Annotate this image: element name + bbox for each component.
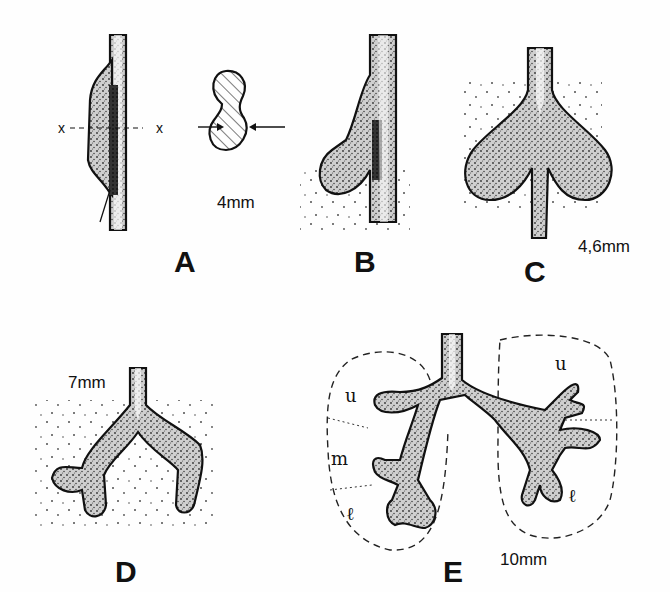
lung-development-diagram: x x 4mm A B C 4,6mm 7mm D xyxy=(0,0,670,592)
dark-thickening xyxy=(109,85,118,195)
panel-a: x x 4mm A xyxy=(58,35,285,278)
axis-x-right: x xyxy=(156,120,163,136)
lobe-label-left-lower: ℓ xyxy=(346,503,355,524)
panel-label-b: B xyxy=(354,245,376,278)
lobe-label-left-middle: m xyxy=(331,448,348,469)
size-label-a: 4mm xyxy=(217,193,255,212)
panel-label-a: A xyxy=(174,245,196,278)
panel-label-d: D xyxy=(115,555,137,588)
panel-label-c: C xyxy=(524,255,546,288)
panel-b: B xyxy=(300,35,410,278)
lobe-label-left-upper: u xyxy=(345,385,357,406)
axis-x-left: x xyxy=(58,120,65,136)
cross-section-shape xyxy=(210,71,247,150)
figure-canvas: x x 4mm A B C 4,6mm 7mm D xyxy=(0,0,670,592)
size-label-e: 10mm xyxy=(500,550,547,569)
panel-d: 7mm D xyxy=(35,368,215,588)
lobe-label-right-lower: ℓ xyxy=(568,485,577,506)
panel-c: C 4,6mm xyxy=(462,48,630,288)
left-fissure-lower xyxy=(330,485,372,490)
lobe-label-right-upper: u xyxy=(555,353,567,374)
size-label-c: 4,6mm xyxy=(578,237,630,256)
left-fissure-upper xyxy=(328,418,368,428)
size-label-d: 7mm xyxy=(68,373,106,392)
panel-label-e: E xyxy=(443,555,463,588)
panel-e: u m ℓ u ℓ 10mm E xyxy=(327,334,617,588)
